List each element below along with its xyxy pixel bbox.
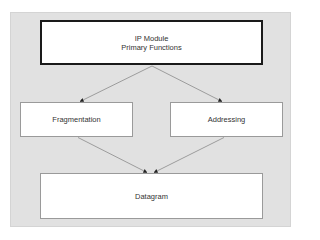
node-fragmentation-label: Fragmentation xyxy=(52,115,100,124)
node-primary-line2: Primary Functions xyxy=(121,43,181,52)
node-datagram-label: Datagram xyxy=(135,192,168,201)
node-addressing-label: Addressing xyxy=(208,115,246,124)
node-ip-module-primary-functions: IP Module Primary Functions xyxy=(40,20,263,65)
node-fragmentation: Fragmentation xyxy=(20,102,133,137)
node-primary-line1: IP Module xyxy=(135,34,169,43)
node-datagram: Datagram xyxy=(40,173,263,219)
node-addressing: Addressing xyxy=(170,102,283,137)
